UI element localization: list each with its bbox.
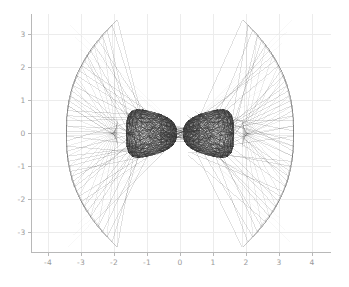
x-tick-label: 3 [277, 259, 282, 267]
x-tick-label: -4 [44, 259, 52, 267]
y-tick-label: -2 [8, 196, 26, 204]
plot-canvas [0, 0, 349, 287]
x-tick-label: -1 [143, 259, 151, 267]
x-tick-label: 2 [244, 259, 249, 267]
y-tick-label: 3 [8, 31, 26, 39]
x-tick-label: 1 [211, 259, 216, 267]
y-tick-label: -1 [8, 163, 26, 171]
x-tick-label: -3 [77, 259, 85, 267]
x-tick-label: 0 [178, 259, 183, 267]
y-tick-label: 0 [8, 130, 26, 138]
y-tick-label: -3 [8, 229, 26, 237]
x-tick-label: 4 [310, 259, 315, 267]
chart-figure: -4-3-2-101234 3210-1-2-3 [0, 0, 349, 287]
y-tick-label: 2 [8, 64, 26, 72]
x-tick-label: -2 [110, 259, 118, 267]
y-tick-label: 1 [8, 97, 26, 105]
